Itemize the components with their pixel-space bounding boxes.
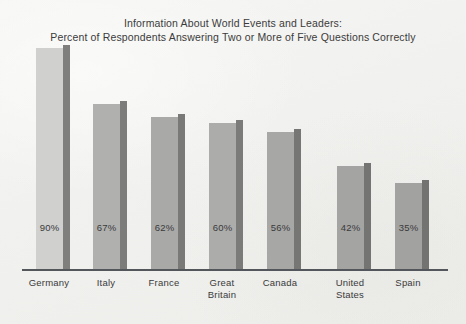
bar-value-label: 67% xyxy=(93,222,120,233)
category-label-line: Spain xyxy=(373,277,443,289)
bar-side-face xyxy=(364,163,371,269)
category-label-line: Canada xyxy=(245,277,315,289)
bar-side-face xyxy=(120,101,127,269)
category-label-canada: Canada xyxy=(245,277,315,289)
bar-value-label: 90% xyxy=(36,222,63,233)
bar-side-face xyxy=(63,45,70,269)
bar-side-face xyxy=(236,120,243,269)
bar-front-face xyxy=(151,117,178,269)
bar-front-face xyxy=(36,48,63,269)
bar-great-britain: 60% xyxy=(209,123,236,269)
bar-side-face xyxy=(294,129,301,269)
bar-value-label: 60% xyxy=(209,222,236,233)
bar-germany: 90% xyxy=(36,48,63,269)
bar-side-face xyxy=(422,180,429,269)
bar-spain: 35% xyxy=(395,183,422,269)
bar-front-face xyxy=(209,123,236,269)
bar-value-label: 56% xyxy=(267,222,294,233)
bar-value-label: 35% xyxy=(395,222,422,233)
bar-united-states: 42% xyxy=(337,166,364,269)
bar-side-face xyxy=(178,114,185,269)
bar-front-face xyxy=(267,132,294,269)
category-label-line: States xyxy=(315,289,385,301)
category-label-line: Britain xyxy=(187,289,257,301)
bar-value-label: 62% xyxy=(151,222,178,233)
category-label-spain: Spain xyxy=(373,277,443,289)
x-axis-line xyxy=(22,269,448,271)
bar-front-face xyxy=(93,104,120,269)
bar-value-label: 42% xyxy=(337,222,364,233)
bar-front-face xyxy=(337,166,364,269)
bar-italy: 67% xyxy=(93,104,120,269)
bar-canada: 56% xyxy=(267,132,294,269)
bar-france: 62% xyxy=(151,117,178,269)
plot-area: 90%67%62%60%56%42%35% xyxy=(0,0,466,324)
bar-chart: Information About World Events and Leade… xyxy=(0,0,466,324)
